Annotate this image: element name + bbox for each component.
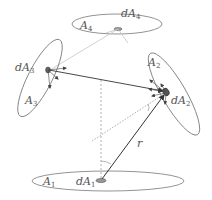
patch-da1 — [96, 179, 106, 183]
light-rays-da4 — [50, 29, 128, 70]
label-a1: A1 — [42, 175, 55, 189]
label-da3: dA3 — [15, 61, 34, 75]
angle-arc-theta1 — [101, 161, 111, 164]
angle-arc-theta2 — [148, 104, 149, 111]
label-a3: A3 — [24, 94, 37, 108]
label-a2: A2 — [147, 56, 160, 70]
normal-da2 — [92, 94, 164, 141]
label-a4: A4 — [79, 19, 93, 33]
surface-a1: A1 dA1 — [32, 171, 184, 191]
ray-da3-to-da2 — [49, 70, 163, 91]
label-da2: dA2 — [171, 94, 190, 108]
view-factor-diagram: A4 dA4 dA3 A3 A2 dA2 A1 dA1 — [0, 0, 212, 200]
surface-a2: A2 dA2 — [140, 47, 208, 140]
surface-a3-outline — [10, 34, 70, 122]
surface-a3: dA3 A3 — [10, 34, 70, 122]
label-r: r — [137, 137, 143, 150]
ray-da1-to-da2 — [102, 95, 164, 179]
label-da4: dA4 — [121, 7, 141, 21]
label-da1: dA1 — [76, 175, 95, 189]
